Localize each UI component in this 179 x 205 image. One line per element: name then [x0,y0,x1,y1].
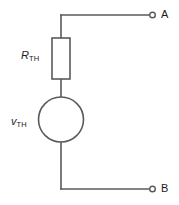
source-symbol: v [11,115,17,127]
terminal-a-node-icon [150,12,156,18]
voltage-source-vth-body [39,97,84,142]
terminal-a-label: A [161,9,168,20]
resistor-subscript: TH [29,54,39,63]
circuit-diagram-canvas: RTH vTH A B [0,0,179,205]
terminal-b-label: B [161,183,168,194]
terminal-b-node-icon [150,186,156,192]
resistor-symbol: R [21,49,29,61]
circuit-schematic [0,0,179,205]
resistor-rth-body [52,38,70,79]
voltage-source-vth-label: vTH [11,112,27,128]
source-subscript: TH [17,120,27,129]
resistor-rth-label: RTH [21,46,39,62]
